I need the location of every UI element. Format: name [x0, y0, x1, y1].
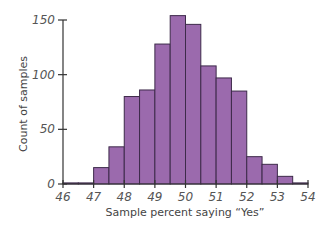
x-tick-label: 53 [270, 190, 285, 204]
histogram-bar [186, 24, 201, 184]
x-tick-label: 50 [178, 190, 194, 204]
y-axis-title: Count of samples [17, 56, 30, 152]
x-tick-label: 48 [117, 190, 133, 204]
histogram-bar [231, 91, 246, 184]
y-tick-label: 0 [47, 177, 55, 191]
histogram-bar [216, 78, 231, 184]
x-tick-label: 52 [239, 190, 254, 204]
y-tick-label: 100 [32, 68, 55, 82]
histogram-bars [63, 16, 308, 184]
x-tick-label: 47 [86, 190, 102, 204]
y-tick-label: 50 [40, 122, 56, 136]
histogram-bar [155, 44, 170, 184]
histogram-bar [109, 147, 124, 184]
histogram-bar [262, 164, 277, 184]
x-tick-label: 51 [208, 190, 223, 204]
x-axis-title: Sample percent saying “Yes” [105, 206, 264, 219]
histogram-bar [170, 16, 185, 184]
histogram-bar [247, 157, 262, 184]
histogram-bar [277, 176, 292, 184]
y-tick-label: 150 [32, 13, 55, 27]
histogram-bar [201, 66, 216, 184]
histogram-chart: 050100150464748495051525354 Count of sam… [0, 0, 335, 231]
x-tick-label: 49 [147, 190, 162, 204]
histogram-bar [94, 168, 109, 184]
x-tick-label: 46 [55, 190, 71, 204]
histogram-bar [124, 97, 139, 184]
histogram-bar [140, 90, 155, 184]
x-tick-label: 54 [300, 190, 315, 204]
